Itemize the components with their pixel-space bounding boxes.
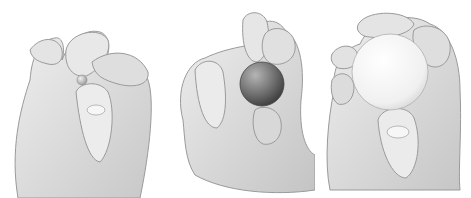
- large-white-ball: [352, 34, 428, 110]
- hand-illustration-large-ball: [310, 0, 471, 198]
- small-bead: [77, 75, 87, 85]
- hand-small-bead-drawing: [0, 0, 160, 198]
- hand-illustration-medium-ball: [155, 0, 315, 198]
- medium-dark-ball: [240, 62, 284, 106]
- hand-medium-ball-drawing: [155, 0, 315, 198]
- hand-illustration-small-bead: [0, 0, 160, 198]
- hand-large-ball-drawing: [310, 0, 471, 198]
